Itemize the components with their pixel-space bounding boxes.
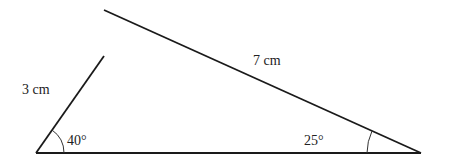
top-side-line [104,10,421,153]
left-side-length-label: 3 cm [22,82,50,97]
top-side-length-label: 7 cm [253,53,281,68]
diagram-canvas: 3 cm 7 cm 40° 25° [0,0,450,165]
angle-40-label: 40° [67,133,87,148]
angle-25-label: 25° [304,133,324,148]
triangle-diagram: 3 cm 7 cm 40° 25° [0,0,450,165]
angle-arc-25 [367,131,372,153]
angle-arc-40 [52,130,64,153]
